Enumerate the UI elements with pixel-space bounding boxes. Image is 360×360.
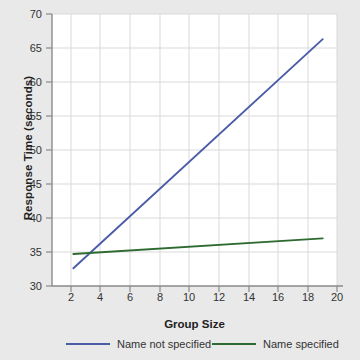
x-tick-label-16: 16 — [263, 291, 293, 303]
line-chart-svg — [0, 0, 360, 360]
x-tick-label-2: 2 — [56, 291, 86, 303]
x-axis-title: Group Size — [52, 318, 337, 330]
y-axis-title: Response Time (seconds) — [22, 28, 34, 268]
legend-label-name-specified: Name specified — [263, 338, 339, 350]
x-tick-label-6: 6 — [115, 291, 145, 303]
legend-swatch-blue — [66, 343, 110, 345]
x-tick-label-10: 10 — [174, 291, 204, 303]
y-tick-marks — [46, 14, 52, 286]
horizontal-gridlines — [52, 14, 337, 252]
series-line-name-not-specified — [73, 39, 322, 268]
y-tick-label-70: 70 — [18, 8, 42, 20]
legend-item-name-specified[interactable]: Name specified — [212, 338, 339, 350]
y-tick-label-30: 30 — [18, 280, 42, 292]
x-tick-label-14: 14 — [234, 291, 264, 303]
legend-item-name-not-specified[interactable]: Name not specified — [66, 338, 211, 350]
x-tick-label-4: 4 — [85, 291, 115, 303]
x-tick-label-20: 20 — [322, 291, 352, 303]
x-tick-label-18: 18 — [293, 291, 323, 303]
x-tick-label-8: 8 — [145, 291, 175, 303]
x-tick-label-12: 12 — [204, 291, 234, 303]
legend-label-name-not-specified: Name not specified — [117, 338, 211, 350]
chart-figure: 70 65 60 55 50 45 40 35 30 2 4 6 8 10 12… — [0, 0, 360, 360]
chart-legend: Name not specified Name specified — [0, 336, 360, 358]
legend-swatch-green — [212, 343, 256, 345]
